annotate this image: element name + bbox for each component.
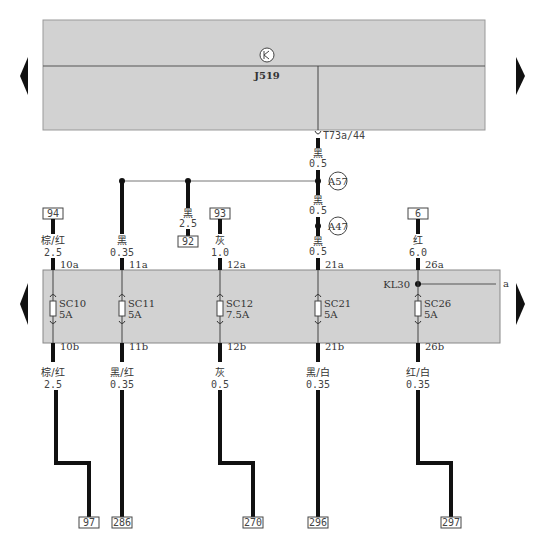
pin-label: 12a [227,259,246,270]
fuse-column-sc12: 93 灰 1.0 12a SC12 7.5A 12b 灰 0.5 270 [210,208,263,528]
ref-label: 94 [47,208,59,219]
transistor-icon [260,48,274,62]
fuse-id: SC10 [59,298,86,309]
wire-size-label: 0.35 [306,379,330,390]
fuse-rating: 5A [128,309,142,320]
fuse-column-sc26: 6 红 6.0 26a SC26 5A 26b 红/白 0.35 297 [406,208,461,528]
fuse-rating: 7.5A [226,309,250,320]
pin-label: 11b [129,341,148,352]
ref-label: 286 [113,517,131,528]
wire-color-label: 黑/白 [306,366,329,378]
wire-color-label: 红 [413,234,423,246]
wire-color-label: 红/白 [406,366,429,378]
wire-color-label: 灰 [215,234,225,246]
pin-label: 21b [325,341,344,352]
ref-label: 6 [415,208,421,219]
wire-size-label: 0.35 [110,379,134,390]
left-arrow-icon[interactable] [20,57,28,95]
fuse-id: SC11 [128,298,155,309]
wire-size-label: 0.5 [309,246,327,257]
pin-label: 10a [60,259,79,270]
ref-label: 97 [83,517,95,528]
kl30-ref: a [503,278,509,289]
wire-color-label: 灰 [215,366,225,378]
connector-label: T73a/44 [323,130,365,141]
fuse-rating: 5A [324,309,338,320]
kl30-label: KL30 [383,279,410,290]
fuse-icon [119,301,125,316]
left-arrow-icon[interactable] [20,283,28,325]
ref-label: 92 [182,236,194,247]
wire-color-label: 黑/红 [110,366,133,378]
pin-label: 12b [227,341,246,352]
pin-label: 26b [425,341,444,352]
fuse-icon [415,301,421,316]
wire-size-label: 0.35 [406,379,430,390]
fuse-icon [217,301,223,316]
wire-size-label: 0.35 [110,247,134,258]
module-name: J519 [253,70,280,81]
pin-label: 26a [425,259,444,270]
fuse-icon [50,301,56,316]
fuse-rating: 5A [59,309,73,320]
right-arrow-icon[interactable] [516,57,525,95]
wire-color-label: 棕/红 [41,234,64,246]
wire-color-label: 棕/红 [41,366,64,378]
fuse-rating: 5A [424,309,438,320]
wire-size-label: 0.5 [309,205,327,216]
wire-size-label: 2.5 [44,247,62,258]
wire-size-label: 6.0 [409,247,427,258]
fuse-id: SC12 [226,298,253,309]
pin-label: 11a [129,259,148,270]
ref-label: 297 [442,517,460,528]
wire-color-label: 黑 [117,235,127,246]
wire-size-label: 2.5 [179,218,197,229]
splice-a47-label: A47 [327,221,348,232]
ref-label: 93 [214,208,226,219]
pin-label: 10b [60,341,79,352]
pin-label: 21a [325,259,344,270]
wiring-diagram: J519 T73a/44 黑 0.5 A57 黑 0.5 A47 黑 0.5 黑… [0,0,541,559]
ref-label: 270 [244,517,262,528]
wire-size-label: 0.5 [211,379,229,390]
connector-pin-icon [315,131,321,134]
fuse-id: SC21 [324,298,351,309]
wire-size-label: 2.5 [44,379,62,390]
ref-label: 296 [309,517,327,528]
splice-dot [315,178,321,184]
fuse-column-sc10: 94 棕/红 2.5 10a SC10 5A 10b 棕/红 2.5 97 [41,208,99,528]
wire-size-label: 0.5 [309,158,327,169]
splice-a57-label: A57 [327,176,348,187]
fuse-icon [315,301,321,316]
right-arrow-icon[interactable] [516,283,525,325]
wire-size-label: 1.0 [211,247,229,258]
fuse-id: SC26 [424,298,451,309]
splice-dot [315,223,321,229]
